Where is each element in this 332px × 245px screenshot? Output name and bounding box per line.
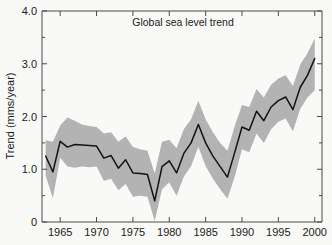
x-tick-label: 1985 [193,226,217,238]
y-tick-label: 2.0 [22,111,37,123]
y-tick-label: 1.0 [22,163,37,175]
x-tick-label: 1995 [266,226,290,238]
x-tick-label: 2000 [302,226,326,238]
chart-title: Global sea level trend [132,16,234,28]
x-tick-label: 1975 [121,226,145,238]
x-tick-label: 1970 [84,226,108,238]
x-tick-label: 1980 [157,226,181,238]
x-tick-label: 1990 [230,226,254,238]
chart-background [0,0,332,245]
chart-screenshot: 01.02.03.04.0 19651970197519801985199019… [0,0,332,245]
sea-level-trend-chart: 01.02.03.04.0 19651970197519801985199019… [0,0,332,245]
y-tick-label: 3.0 [22,58,37,70]
y-axis-label: Trend (mms/year) [4,73,16,160]
x-tick-label: 1965 [48,226,72,238]
y-tick-label: 0 [31,216,37,228]
y-tick-label: 4.0 [22,5,37,17]
